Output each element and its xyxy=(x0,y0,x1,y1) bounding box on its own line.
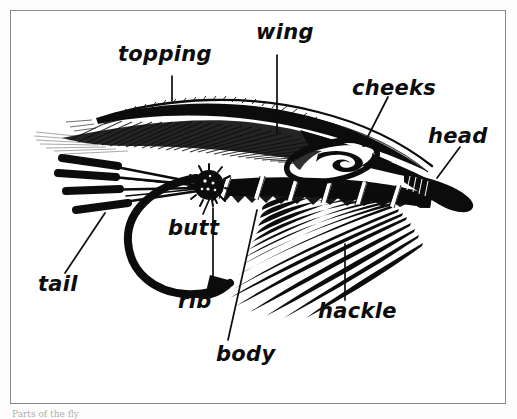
body-leader-line xyxy=(228,210,257,340)
figure-caption-partial: Parts of the fly xyxy=(12,409,312,419)
figure-root: topping wing cheeks head butt tail rib h… xyxy=(0,0,517,419)
label-cheeks: cheeks xyxy=(352,78,436,99)
tail-tip xyxy=(76,203,128,210)
tail-fiber-strokes xyxy=(92,163,198,205)
tail-tip xyxy=(62,158,118,166)
tail-fiber-tips xyxy=(58,158,128,210)
tail-leader-line xyxy=(65,213,105,273)
label-topping: topping xyxy=(118,44,212,65)
label-tail: tail xyxy=(38,274,78,295)
label-butt: butt xyxy=(168,218,219,239)
label-body: body xyxy=(216,344,275,365)
label-rib: rib xyxy=(178,291,212,312)
label-head: head xyxy=(428,126,488,147)
head-leader-line xyxy=(437,147,460,178)
tail-tip xyxy=(66,189,120,191)
label-wing: wing xyxy=(256,22,314,43)
fly-tail-group xyxy=(58,158,198,210)
label-hackle: hackle xyxy=(318,301,397,322)
tail-tip xyxy=(58,173,116,177)
cheeks-leader-line xyxy=(363,97,388,146)
